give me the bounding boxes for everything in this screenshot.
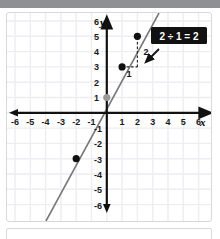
coordinate-plane-svg: -6 -5 -4 -3 -2 -1 1 2 3 4 5 6 6 5 4 3 2 …: [7, 13, 211, 221]
x-axis-label: x: [199, 116, 206, 128]
y-tick-label: 4: [94, 47, 99, 57]
y-tick-label: -4: [94, 170, 102, 180]
x-tick-label: -4: [42, 117, 50, 127]
y-tick-label: -1: [94, 124, 102, 134]
window-top-bar: [0, 0, 220, 8]
x-tick-label: 3: [150, 117, 155, 127]
y-tick-label: 5: [94, 32, 99, 42]
x-tick-label: -2: [72, 117, 80, 127]
x-tick-label: -6: [11, 117, 19, 127]
data-point: [134, 33, 141, 40]
bottom-panel: [6, 228, 212, 239]
x-tick-label: -5: [26, 117, 34, 127]
x-tick-label: 1: [120, 117, 125, 127]
x-tick-label: -3: [57, 117, 65, 127]
y-tick-label: -6: [94, 201, 102, 211]
y-tick-label: 3: [94, 62, 99, 72]
y-tick-label: 1: [94, 93, 99, 103]
x-tick-label: 5: [181, 117, 186, 127]
y-tick-label: -3: [94, 155, 102, 165]
y-tick-label: -2: [94, 139, 102, 149]
coordinate-graph-panel: -6 -5 -4 -3 -2 -1 1 2 3 4 5 6 6 5 4 3 2 …: [6, 12, 212, 222]
run-label: 1: [126, 69, 131, 79]
data-point: [73, 155, 80, 162]
y-intercept-point: [103, 94, 110, 101]
rise-label: 2: [143, 47, 148, 57]
data-point: [119, 63, 126, 70]
y-tick-label: -5: [94, 185, 102, 195]
y-axis-label: y: [98, 16, 105, 28]
y-tick-label: 6: [94, 17, 99, 27]
y-tick-label: 2: [94, 78, 99, 88]
x-tick-label: 4: [165, 117, 170, 127]
callout-arrow: [148, 49, 159, 60]
x-tick-label: 2: [135, 117, 140, 127]
callout-label: 2 ÷ 1 = 2: [159, 31, 199, 42]
